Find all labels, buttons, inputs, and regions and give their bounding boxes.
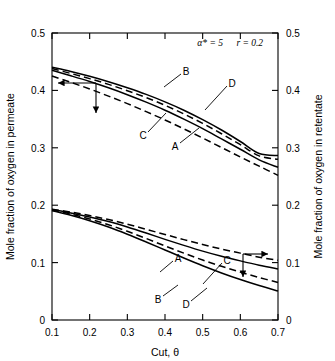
curve-permeate-C xyxy=(52,70,278,167)
curve-label-leader-permeate-D xyxy=(205,86,227,110)
x-tick-label: 0.6 xyxy=(233,327,247,338)
x-tick-label: 0.4 xyxy=(158,327,172,338)
curve-label-permeate-C: C xyxy=(139,130,146,141)
curve-label-leader-permeate-B xyxy=(164,74,181,87)
y-tick-label-left: 0.2 xyxy=(31,200,45,211)
curve-label-retentate-C: C xyxy=(223,255,230,266)
x-tick-label: 0.1 xyxy=(45,327,59,338)
x-tick-label: 0.5 xyxy=(196,327,210,338)
curve-permeate-A xyxy=(52,76,278,175)
y-tick-label-right: 0.5 xyxy=(286,28,300,39)
curve-retentate-B xyxy=(52,211,278,291)
y-tick-label-right: 0.4 xyxy=(286,85,300,96)
y-tick-label-right: 0.3 xyxy=(286,143,300,154)
chart-figure: 0.10.20.30.40.50.60.700.10.20.30.40.500.… xyxy=(0,0,335,361)
x-axis-title: Cut, θ xyxy=(151,346,179,358)
curve-label-retentate-D: D xyxy=(182,299,189,310)
y-tick-label-left: 0.3 xyxy=(31,143,45,154)
curve-label-permeate-D: D xyxy=(228,78,235,89)
annotation-0: α* = 5 xyxy=(197,38,223,48)
x-tick-label: 0.3 xyxy=(120,327,134,338)
curve-label-leader-retentate-B xyxy=(163,285,178,296)
oxygen-mole-fraction-chart: 0.10.20.30.40.50.60.700.10.20.30.40.500.… xyxy=(0,0,335,361)
x-tick-label: 0.7 xyxy=(271,327,285,338)
curve-label-retentate-A: A xyxy=(175,253,182,264)
curve-label-leader-retentate-D xyxy=(191,288,207,301)
curve-label-leader-retentate-C xyxy=(203,263,222,284)
curve-retentate-D xyxy=(52,210,278,282)
y-tick-label-right: 0.1 xyxy=(286,258,300,269)
curve-label-retentate-B: B xyxy=(155,294,162,305)
curve-label-leader-retentate-A xyxy=(160,261,173,272)
y-axis-title-right: Mole fraction of oxygen in retentate xyxy=(312,94,324,258)
curve-label-permeate-A: A xyxy=(172,141,179,152)
y-tick-label-left: 0.4 xyxy=(31,85,45,96)
y-tick-label-right: 0 xyxy=(286,315,292,326)
curve-label-permeate-B: B xyxy=(183,66,190,77)
y-tick-label-left: 0 xyxy=(39,315,45,326)
y-axis-title-left: Mole fraction of oxygen in permeate xyxy=(4,93,16,260)
axis-indicator-left-down xyxy=(58,83,96,113)
x-tick-label: 0.2 xyxy=(83,327,97,338)
y-tick-label-left: 0.1 xyxy=(31,258,45,269)
y-tick-label-left: 0.5 xyxy=(31,28,45,39)
annotation-1: r = 0.2 xyxy=(236,38,263,48)
y-tick-label-right: 0.2 xyxy=(286,200,300,211)
